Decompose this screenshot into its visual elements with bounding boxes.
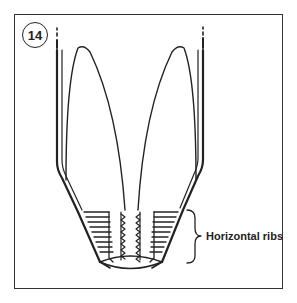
- threaded-stem: [121, 212, 140, 262]
- curly-brace-bracket: [187, 210, 201, 263]
- horizontal-ribs-label: Horizontal ribs: [206, 230, 283, 242]
- right-leaf: [138, 47, 196, 210]
- left-leaf: [66, 47, 125, 210]
- tooth-cross-section-diagram: [0, 0, 297, 303]
